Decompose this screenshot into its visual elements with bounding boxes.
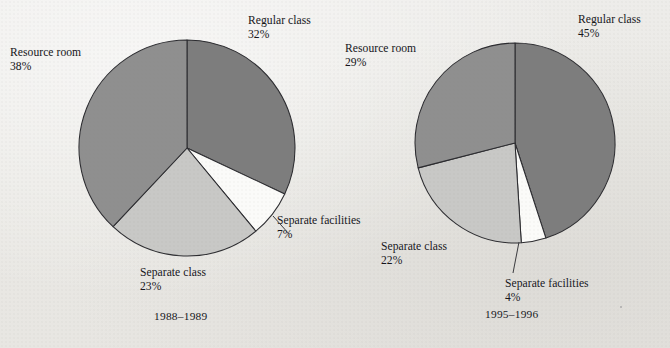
label-regular-class-left-name: Regular class [248, 14, 311, 27]
leader-line-separate-facilities [513, 242, 519, 273]
clipped-bottom-text [503, 341, 623, 348]
label-regular-class-right: Regular class 45% [578, 13, 641, 41]
label-separate-facilities-right-value: 4% [505, 291, 589, 305]
label-separate-facilities-left: Separate facilities 7% [277, 214, 361, 242]
label-resource-room-left-value: 38% [10, 60, 81, 74]
figure-canvas: Regular class 32% Resource room 38% Sepa… [0, 0, 670, 348]
label-separate-facilities-right-name: Separate facilities [505, 277, 589, 290]
label-regular-class-left-value: 32% [248, 28, 311, 42]
caption-1995-1996: 1995–1996 [485, 308, 539, 320]
scan-speck [620, 306, 622, 308]
label-regular-class-right-name: Regular class [578, 13, 641, 26]
pie-chart-1988-1989 [77, 38, 297, 258]
pie-chart-1995-1996 [413, 41, 617, 245]
label-resource-room-left-name: Resource room [10, 46, 81, 59]
label-separate-class-left: Separate class 23% [140, 266, 206, 294]
label-regular-class-right-value: 45% [578, 27, 641, 41]
label-separate-facilities-left-name: Separate facilities [277, 214, 361, 227]
label-resource-room-right-name: Resource room [345, 42, 416, 55]
label-separate-facilities-left-value: 7% [277, 228, 361, 242]
label-separate-class-right-value: 22% [381, 254, 447, 268]
label-resource-room-left: Resource room 38% [10, 46, 81, 74]
label-resource-room-right: Resource room 29% [345, 42, 416, 70]
label-separate-class-right-name: Separate class [381, 240, 447, 253]
label-regular-class-left: Regular class 32% [248, 14, 311, 42]
label-separate-class-left-value: 23% [140, 280, 206, 294]
label-separate-class-left-name: Separate class [140, 266, 206, 279]
label-resource-room-right-value: 29% [345, 56, 416, 70]
caption-1988-1989: 1988–1989 [154, 310, 208, 322]
label-separate-class-right: Separate class 22% [381, 240, 447, 268]
label-separate-facilities-right: Separate facilities 4% [505, 277, 589, 305]
